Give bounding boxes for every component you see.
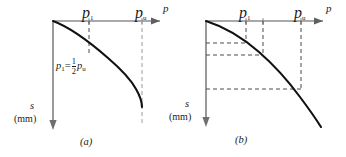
tick-label-pu-b: pu <box>294 5 306 21</box>
s-axis-variable-label-b: s <box>185 99 189 110</box>
tick-label-p1-b: p1 <box>239 5 251 21</box>
panel-caption-a: (a) <box>80 137 92 148</box>
p-axis-label-a: p <box>163 3 169 14</box>
tick-label-p1-a: p1 <box>82 5 94 21</box>
tick-label-pu-a: pu <box>135 5 147 21</box>
pressure-settlement-figure: p1 pu p p1=12pu s (mm) (a) <box>0 0 346 157</box>
p-axis-arrowhead-a <box>151 18 160 25</box>
p-axis-arrowhead-b <box>314 18 323 25</box>
panel-b-graphics <box>173 0 346 157</box>
s-axis-arrowhead-a <box>49 120 56 130</box>
p-axis-label-b: p <box>326 3 332 14</box>
s-axis-unit-label-a: (mm) <box>14 114 36 124</box>
s-axis-variable-label-a: s <box>30 101 34 112</box>
panel-a: p1 pu p p1=12pu s (mm) (a) <box>0 0 173 157</box>
s-axis-arrowhead-b <box>202 117 209 127</box>
panel-caption-b: (b) <box>235 135 247 146</box>
panel-a-graphics <box>0 0 173 157</box>
s-axis-unit-label-b: (mm) <box>169 112 191 122</box>
panel-b: p1 pu p s (mm) (b) <box>173 0 346 157</box>
equation-p1-half-pu: p1=12pu <box>56 57 86 75</box>
